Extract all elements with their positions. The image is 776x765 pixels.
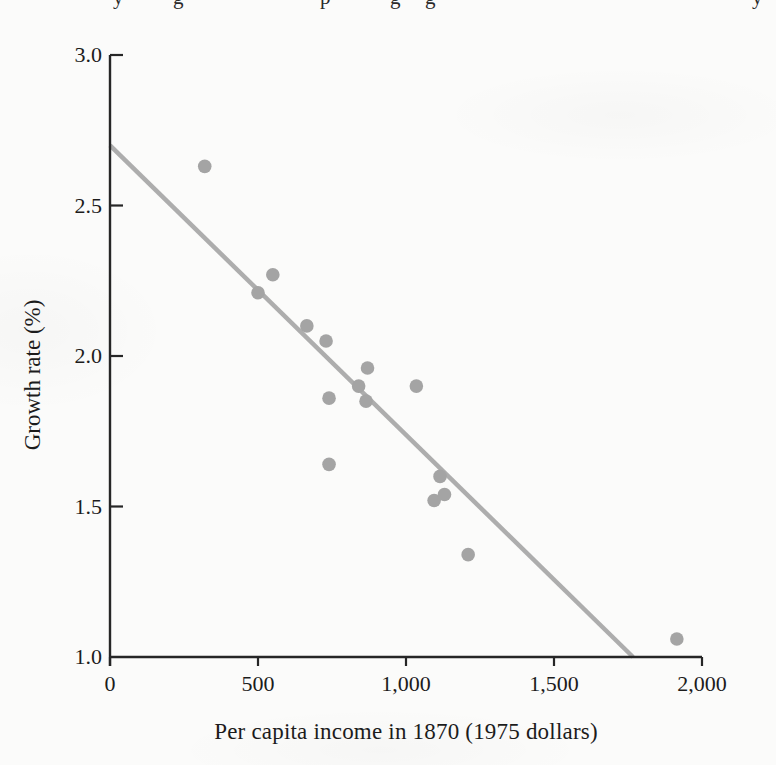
scatter-plot-canvas <box>0 0 776 765</box>
data-point <box>361 361 375 375</box>
x-tick-label: 0 <box>68 672 152 696</box>
x-tick-label: 2,000 <box>660 672 744 696</box>
y-tick-label: 1.5 <box>50 495 102 519</box>
x-tick-label: 1,500 <box>512 672 596 696</box>
data-point <box>300 319 314 333</box>
y-tick-label: 2.5 <box>50 194 102 218</box>
y-tick-label: 3.0 <box>50 43 102 67</box>
x-tick-label: 500 <box>216 672 300 696</box>
data-point <box>438 488 452 502</box>
data-point <box>433 470 447 484</box>
y-tick-label: 2.0 <box>50 344 102 368</box>
scanned-book-page: ygpggy 1.01.52.02.53.005001,0001,5002,00… <box>0 0 776 765</box>
data-point <box>352 379 366 393</box>
data-point <box>461 548 475 562</box>
data-point <box>322 458 336 472</box>
data-point <box>266 268 280 282</box>
data-point <box>319 334 333 348</box>
y-axis-title: Growth rate (%) <box>20 225 48 525</box>
x-tick-label: 1,000 <box>364 672 448 696</box>
data-point <box>670 632 684 646</box>
y-tick-label: 1.0 <box>50 645 102 669</box>
data-point <box>410 379 424 393</box>
data-point <box>198 160 212 174</box>
data-point <box>322 391 336 405</box>
data-point <box>251 286 265 300</box>
data-point <box>359 394 373 408</box>
x-axis-title: Per capita income in 1870 (1975 dollars) <box>110 719 702 745</box>
